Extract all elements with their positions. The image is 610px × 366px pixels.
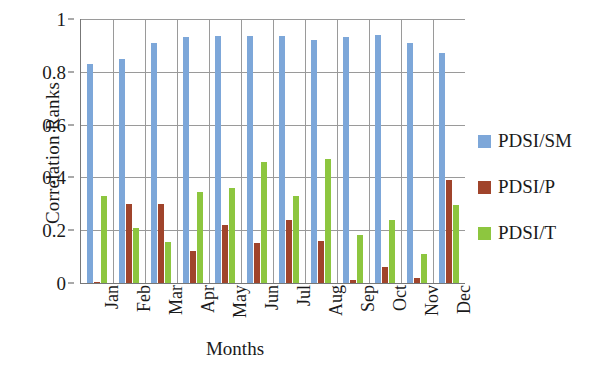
x-tick-label-may: May: [231, 285, 249, 318]
bar-group: [177, 19, 209, 283]
bar-pdsi-sm-jan: [87, 64, 93, 283]
y-tick-mark: [68, 283, 74, 284]
bar-group: [305, 19, 337, 283]
y-tick-mark: [68, 71, 74, 72]
bar-group: [337, 19, 369, 283]
legend-label: PDSI/SM: [498, 130, 572, 152]
plot-area: [80, 19, 465, 284]
bar-pdsi-sm-apr: [183, 37, 189, 283]
bar-pdsi-t-mar: [165, 242, 171, 283]
bar-pdsi-t-apr: [197, 192, 203, 283]
y-tick-label: 0.4: [42, 168, 66, 187]
bar-pdsi-p-jan: [94, 282, 100, 283]
bar-pdsi-p-jul: [286, 220, 292, 283]
x-tick-label-nov: Nov: [423, 285, 441, 316]
bar-pdsi-sm-aug: [311, 40, 317, 283]
y-axis-tick-labels: 00.20.40.60.81: [8, 0, 74, 300]
bar-pdsi-p-dec: [446, 180, 452, 283]
bar-group: [145, 19, 177, 283]
bar-group: [209, 19, 241, 283]
x-tick-label-sep: Sep: [359, 285, 377, 312]
bar-group: [81, 19, 113, 283]
x-axis-title: Months: [0, 338, 470, 360]
x-tick-label-dec: Dec: [455, 285, 473, 314]
bar-group: [401, 19, 433, 283]
bar-group: [433, 19, 465, 283]
bar-pdsi-t-jul: [293, 196, 299, 283]
y-tick-label: 0: [57, 274, 67, 293]
x-tick-label-apr: Apr: [199, 285, 217, 313]
bar-group: [369, 19, 401, 283]
bar-pdsi-t-may: [229, 188, 235, 283]
bar-pdsi-sm-dec: [439, 53, 445, 283]
bar-pdsi-t-aug: [325, 159, 331, 283]
bar-pdsi-p-may: [222, 225, 228, 283]
y-tick-label: 0.2: [42, 221, 66, 240]
bar-pdsi-p-jun: [254, 243, 260, 283]
y-tick-label: 0.8: [42, 62, 66, 81]
x-tick-label-feb: Feb: [135, 285, 153, 312]
bar-pdsi-t-jan: [101, 196, 107, 283]
legend-swatch-icon: [478, 227, 491, 240]
bar-pdsi-t-dec: [453, 205, 459, 283]
bar-pdsi-t-oct: [389, 220, 395, 283]
bar-pdsi-p-aug: [318, 241, 324, 283]
bar-pdsi-p-sep: [350, 280, 356, 283]
bar-pdsi-t-nov: [421, 254, 427, 283]
bar-group: [113, 19, 145, 283]
y-tick-label: 1: [57, 10, 67, 29]
bar-pdsi-sm-feb: [119, 59, 125, 283]
legend-item[interactable]: PDSI/P: [478, 164, 608, 210]
legend: PDSI/SMPDSI/PPDSI/T: [478, 118, 608, 256]
x-tick-label-jul: Jul: [295, 285, 313, 306]
bar-pdsi-p-feb: [126, 204, 132, 283]
bars-layer: [81, 19, 465, 283]
bar-pdsi-p-mar: [158, 204, 164, 283]
bar-pdsi-t-jun: [261, 162, 267, 283]
bar-group: [241, 19, 273, 283]
legend-swatch-icon: [478, 181, 491, 194]
legend-item[interactable]: PDSI/SM: [478, 118, 608, 164]
bar-pdsi-sm-mar: [151, 43, 157, 283]
y-tick-mark: [68, 19, 74, 20]
bar-chart: Correlation Ranks 00.20.40.60.81 JanFebM…: [0, 0, 610, 366]
bar-pdsi-sm-may: [215, 36, 221, 283]
bar-pdsi-t-sep: [357, 235, 363, 283]
y-tick-mark: [68, 124, 74, 125]
bar-pdsi-t-feb: [133, 228, 139, 283]
y-tick-mark: [68, 230, 74, 231]
bar-pdsi-p-oct: [382, 267, 388, 283]
x-tick-label-mar: Mar: [167, 285, 185, 315]
bar-pdsi-sm-sep: [343, 37, 349, 283]
x-tick-label-jan: Jan: [103, 285, 121, 309]
y-tick-mark: [68, 177, 74, 178]
bar-pdsi-p-nov: [414, 278, 420, 283]
bar-pdsi-sm-nov: [407, 43, 413, 283]
x-tick-label-aug: Aug: [327, 285, 345, 316]
bar-pdsi-p-apr: [190, 251, 196, 283]
legend-swatch-icon: [478, 135, 491, 148]
legend-label: PDSI/T: [498, 222, 556, 244]
bar-pdsi-sm-oct: [375, 35, 381, 283]
x-tick-label-oct: Oct: [391, 285, 409, 311]
bar-group: [273, 19, 305, 283]
bar-pdsi-sm-jul: [279, 36, 285, 283]
bar-pdsi-sm-jun: [247, 36, 253, 283]
y-tick-label: 0.6: [42, 115, 66, 134]
legend-label: PDSI/P: [498, 176, 555, 198]
x-axis-tick-labels: JanFebMarAprMayJunJulAugSepOctNovDec: [80, 285, 464, 340]
legend-item[interactable]: PDSI/T: [478, 210, 608, 256]
x-tick-label-jun: Jun: [263, 285, 281, 310]
